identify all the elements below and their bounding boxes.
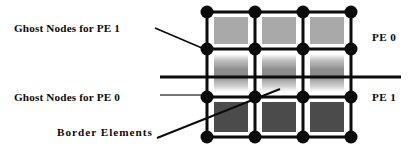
element-row-bottom [214, 102, 344, 132]
element-row-top [214, 17, 344, 44]
label-pe-top: PE 0 [372, 32, 396, 43]
mesh-node [201, 6, 214, 19]
label-ghost-nodes-pe0: Ghost Nodes for PE 0 [14, 92, 120, 103]
element-cell [262, 102, 296, 132]
mesh-node [249, 131, 262, 144]
figure-canvas: Ghost Nodes for PE 1 Ghost Nodes for PE … [0, 0, 420, 154]
mesh-node [201, 43, 214, 56]
label-ghost-nodes-pe1: Ghost Nodes for PE 1 [14, 23, 120, 34]
mesh-node [345, 131, 358, 144]
mesh-node [249, 6, 262, 19]
element-cell [214, 102, 248, 132]
mesh-node [201, 131, 214, 144]
mesh-node [345, 6, 358, 19]
element-cell [262, 17, 296, 44]
label-pe-bottom: PE 1 [372, 92, 396, 103]
element-row-middle [214, 54, 344, 92]
element-cell [310, 17, 344, 44]
element-cell [214, 54, 248, 92]
mesh-node [297, 6, 310, 19]
mesh-node [297, 43, 310, 56]
mesh-node [297, 91, 310, 104]
mesh-node [297, 131, 310, 144]
mesh-node [345, 43, 358, 56]
mesh-node [345, 91, 358, 104]
mesh-node [249, 91, 262, 104]
mesh-node [249, 43, 262, 56]
element-cell [310, 54, 344, 92]
element-cell [310, 102, 344, 132]
label-border-elements: Border Elements [57, 127, 153, 138]
mesh-node [201, 91, 214, 104]
element-cell [262, 54, 296, 92]
element-cell [214, 17, 248, 44]
